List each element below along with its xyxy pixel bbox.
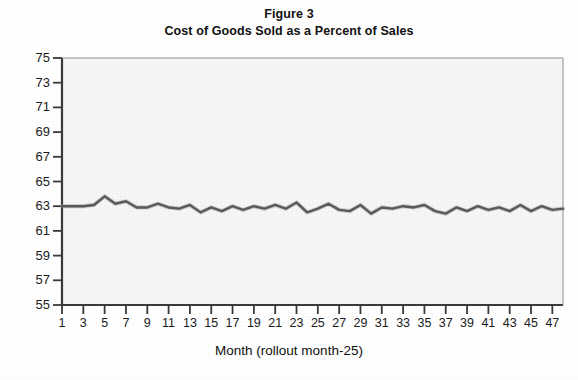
y-tick-label: 69 (16, 125, 50, 138)
y-tick-label: 61 (16, 224, 50, 237)
y-tick-label: 55 (16, 298, 50, 311)
x-tick-label: 29 (349, 317, 371, 330)
y-tick-label: 63 (16, 199, 50, 212)
x-tick-label: 5 (94, 317, 116, 330)
x-tick-label: 25 (307, 317, 329, 330)
y-tick-label: 75 (16, 51, 50, 64)
x-tick-label: 13 (179, 317, 201, 330)
x-tick-label: 21 (264, 317, 286, 330)
x-tick-label: 39 (456, 317, 478, 330)
x-tick-label: 31 (371, 317, 393, 330)
y-tick-label: 73 (16, 76, 50, 89)
x-tick-label: 7 (115, 317, 137, 330)
x-tick-label: 37 (435, 317, 457, 330)
x-axis-title: Month (rollout month-25) (0, 343, 578, 358)
x-tick-label: 15 (200, 317, 222, 330)
x-tick-label: 45 (520, 317, 542, 330)
x-tick-label: 9 (136, 317, 158, 330)
x-tick-label: 11 (158, 317, 180, 330)
y-tick-label: 67 (16, 150, 50, 163)
y-tick-label: 71 (16, 100, 50, 113)
y-tick-label: 59 (16, 249, 50, 262)
plot-background (62, 58, 563, 305)
x-tick-label: 35 (413, 317, 435, 330)
plot-area: 7573716967656361595755135791113151719212… (0, 0, 578, 380)
x-tick-label: 47 (541, 317, 563, 330)
x-tick-label: 43 (499, 317, 521, 330)
x-tick-label: 17 (222, 317, 244, 330)
x-tick-label: 41 (477, 317, 499, 330)
y-tick-label: 65 (16, 175, 50, 188)
y-tick-label: 57 (16, 273, 50, 286)
x-tick-label: 1 (51, 317, 73, 330)
x-tick-label: 23 (286, 317, 308, 330)
x-tick-label: 3 (72, 317, 94, 330)
figure-container: Figure 3 Cost of Goods Sold as a Percent… (0, 0, 578, 380)
x-tick-label: 19 (243, 317, 265, 330)
x-tick-label: 27 (328, 317, 350, 330)
x-tick-label: 33 (392, 317, 414, 330)
